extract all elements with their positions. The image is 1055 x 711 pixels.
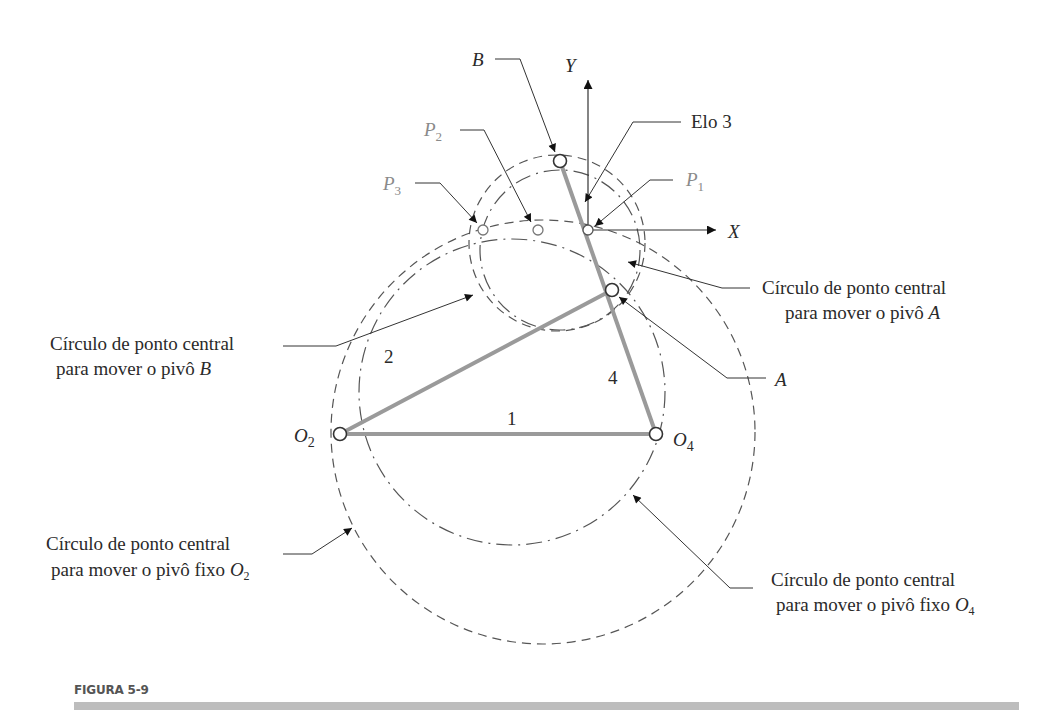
svg-text:para mover o pivô B: para mover o pivô B <box>56 358 212 379</box>
callout-circle-a: Círculo de ponto central para mover o pi… <box>762 277 946 323</box>
figure-caption: FIGURA 5-9 <box>74 683 149 697</box>
callout-circle-b: Círculo de ponto central para mover o pi… <box>50 333 234 379</box>
point-p1 <box>583 225 593 235</box>
svg-text:para mover o pivô fixo O4: para mover o pivô fixo O4 <box>776 594 975 618</box>
callout-circle-o2: Círculo de ponto central para mover o pi… <box>46 533 250 583</box>
svg-text:Círculo de ponto central: Círculo de ponto central <box>46 533 230 554</box>
leader-p3 <box>415 183 477 223</box>
label-p2: P2 <box>423 119 442 144</box>
leader-p2 <box>460 130 531 222</box>
leader-circle-o2 <box>283 528 352 554</box>
leader-p1 <box>595 180 673 226</box>
label-p3: P3 <box>382 173 401 198</box>
pivot-b <box>554 155 567 168</box>
leader-b <box>495 59 555 152</box>
label-o2: O2 <box>294 425 315 450</box>
label-o4: O4 <box>673 429 694 454</box>
pivot-o4 <box>650 428 663 441</box>
label-a: A <box>773 369 787 390</box>
label-link-4: 4 <box>608 367 618 388</box>
leader-circle-b <box>283 295 473 346</box>
circle-fixed-pivot-o4 <box>359 239 665 545</box>
leader-elo3 <box>585 122 681 202</box>
label-x-axis: X <box>727 221 741 242</box>
svg-text:para mover o pivô fixo O2: para mover o pivô fixo O2 <box>51 559 250 583</box>
svg-text:Círculo de ponto central: Círculo de ponto central <box>50 333 234 354</box>
link-4 <box>560 161 656 434</box>
callout-circle-o4: Círculo de ponto central para mover o pi… <box>771 569 975 618</box>
label-link-1: 1 <box>507 408 517 429</box>
label-p1: P1 <box>685 169 704 194</box>
label-b: B <box>472 49 484 70</box>
leader-circle-o4 <box>633 495 753 588</box>
leader-circle-a <box>628 262 750 288</box>
circle-moving-pivot-a <box>480 170 640 330</box>
label-link-2: 2 <box>384 346 394 367</box>
pivot-o2 <box>334 428 347 441</box>
label-elo-3: Elo 3 <box>691 111 732 132</box>
caption-rule <box>74 702 1019 710</box>
point-p3 <box>478 225 488 235</box>
svg-text:Círculo de ponto central: Círculo de ponto central <box>771 569 955 590</box>
circle-moving-pivot-b <box>469 155 645 331</box>
label-y-axis: Y <box>565 55 578 76</box>
point-p2 <box>533 225 543 235</box>
pivot-a <box>606 284 619 297</box>
link-2 <box>340 290 612 434</box>
svg-text:para mover o pivô A: para mover o pivô A <box>785 302 941 323</box>
svg-text:Círculo de ponto central: Círculo de ponto central <box>762 277 946 298</box>
linkage-diagram: B Y X Elo 3 P1 P2 P3 A O2 O4 1 2 4 Círcu… <box>0 0 1055 711</box>
